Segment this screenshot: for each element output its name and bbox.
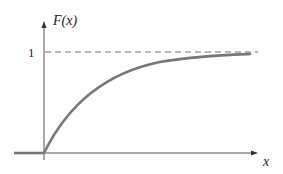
y-axis-label: F(x) bbox=[52, 13, 77, 29]
cdf-curve bbox=[44, 54, 250, 153]
x-axis-label: x bbox=[262, 154, 270, 169]
cdf-chart: F(x) 1 x bbox=[0, 0, 283, 174]
x-axis-arrow-icon bbox=[251, 151, 258, 156]
y-tick-label-one: 1 bbox=[28, 45, 35, 60]
y-axis-arrow-icon bbox=[42, 21, 47, 28]
